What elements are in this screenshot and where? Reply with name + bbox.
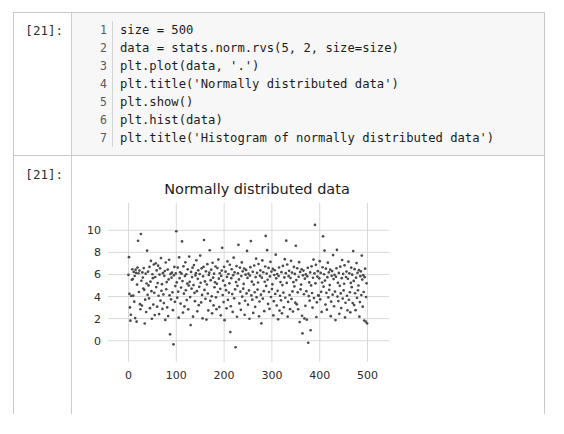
data-point: [223, 319, 226, 322]
data-point: [317, 294, 320, 297]
data-point: [213, 286, 216, 289]
data-point: [275, 277, 278, 280]
data-point: [147, 270, 150, 273]
data-point: [228, 263, 231, 266]
data-point: [206, 283, 209, 286]
data-point: [250, 280, 253, 283]
data-point: [283, 258, 286, 261]
code-editor[interactable]: 1 size = 500 2 data = stats.norm.rvs(5, …: [73, 13, 544, 155]
data-point: [152, 303, 155, 306]
data-point: [235, 281, 238, 284]
data-point: [286, 263, 289, 266]
data-point: [216, 267, 219, 270]
data-point: [245, 292, 248, 295]
data-point: [320, 311, 323, 314]
data-point: [363, 276, 366, 279]
data-point: [204, 298, 207, 301]
data-point: [243, 313, 246, 316]
data-point: [294, 273, 297, 276]
data-point: [290, 298, 293, 301]
data-point: [359, 270, 362, 273]
data-point: [318, 260, 321, 263]
data-point: [318, 277, 321, 280]
data-point: [258, 300, 261, 303]
code-line-row[interactable]: 4 plt.title('Normally distributed data'): [73, 75, 544, 93]
data-point: [141, 271, 144, 274]
code-line-row[interactable]: 3 plt.plot(data, '.'): [73, 57, 544, 75]
code-line-text: plt.title('Normally distributed data'): [113, 75, 399, 93]
data-point: [280, 299, 283, 302]
code-output-cell: [21]: Normally distributed data 01002003…: [14, 156, 544, 414]
data-point: [191, 276, 194, 279]
screenshot-root: [21]: 1 size = 500 2 data = stats.norm.r…: [0, 0, 564, 434]
data-point: [208, 271, 211, 274]
data-point: [359, 301, 362, 304]
x-tick-label: 200: [214, 369, 235, 382]
data-point: [345, 270, 348, 273]
data-point: [343, 264, 346, 267]
data-point: [361, 305, 364, 308]
data-point: [354, 292, 357, 295]
data-point: [202, 266, 205, 269]
data-point: [177, 316, 180, 319]
data-point: [128, 256, 131, 259]
code-line-text: plt.show(): [113, 93, 193, 111]
data-point: [221, 246, 224, 249]
data-point: [332, 254, 335, 257]
data-point: [216, 282, 219, 285]
data-point: [157, 264, 160, 267]
data-point: [255, 296, 258, 299]
code-line-row[interactable]: 2 data = stats.norm.rvs(5, 2, size=size): [73, 39, 544, 57]
code-line-row[interactable]: 1 size = 500: [73, 21, 544, 39]
data-point: [331, 293, 334, 296]
data-point: [328, 288, 331, 291]
data-point: [361, 278, 364, 281]
y-axis-tick-labels: 0246810: [87, 224, 101, 347]
data-point: [314, 282, 317, 285]
data-point: [206, 292, 209, 295]
data-point: [353, 268, 356, 271]
data-point: [342, 273, 345, 276]
data-point: [288, 269, 291, 272]
data-point: [270, 270, 273, 273]
data-point: [296, 291, 299, 294]
x-axis-tick-labels: 0100200300400500: [125, 369, 378, 382]
data-point: [200, 301, 203, 304]
data-point: [238, 302, 241, 305]
data-point: [249, 266, 252, 269]
data-point: [350, 266, 353, 269]
data-point: [168, 258, 171, 261]
data-point: [289, 277, 292, 280]
data-point: [242, 283, 245, 286]
data-point: [234, 288, 237, 291]
data-point: [307, 295, 310, 298]
data-point: [181, 240, 184, 243]
data-point: [278, 266, 281, 269]
data-point: [359, 275, 362, 278]
code-line-text: data = stats.norm.rvs(5, 2, size=size): [113, 39, 399, 57]
data-point: [167, 315, 170, 318]
data-point: [206, 263, 209, 266]
code-line-row[interactable]: 6 plt.hist(data): [73, 111, 544, 129]
data-point: [176, 296, 179, 299]
data-point: [189, 296, 192, 299]
data-point: [129, 306, 132, 309]
data-point: [196, 310, 199, 313]
code-input-cell[interactable]: [21]: 1 size = 500 2 data = stats.norm.r…: [14, 13, 544, 156]
data-point: [305, 318, 308, 321]
data-point: [217, 291, 220, 294]
data-point: [311, 292, 314, 295]
data-point: [321, 266, 324, 269]
code-line-row[interactable]: 5 plt.show(): [73, 93, 544, 111]
data-point: [334, 319, 337, 322]
y-tick-label: 2: [94, 313, 101, 326]
code-line-row[interactable]: 7 plt.title('Histogram of normally distr…: [73, 129, 544, 147]
data-point: [355, 276, 358, 279]
data-point: [175, 230, 178, 233]
data-point: [316, 270, 319, 273]
data-point: [259, 269, 262, 272]
data-point: [324, 303, 327, 306]
code-line-text: plt.plot(data, '.'): [113, 57, 259, 75]
data-point: [366, 322, 369, 325]
data-point: [134, 268, 137, 271]
